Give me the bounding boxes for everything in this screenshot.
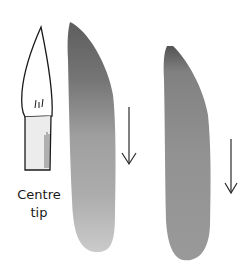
brush-stroke-illustration: Centre tip [0,0,252,278]
brush-label-line2: tip [14,204,64,222]
illustration-canvas [0,0,252,278]
arrow-down-icon-left [122,107,136,164]
paint-stroke-right [164,46,211,260]
brush-icon [22,27,53,170]
paint-stroke-left [68,22,116,252]
brush-label: Centre tip [14,186,64,222]
brush-label-line1: Centre [14,186,64,204]
arrow-down-icon-right [225,139,237,193]
